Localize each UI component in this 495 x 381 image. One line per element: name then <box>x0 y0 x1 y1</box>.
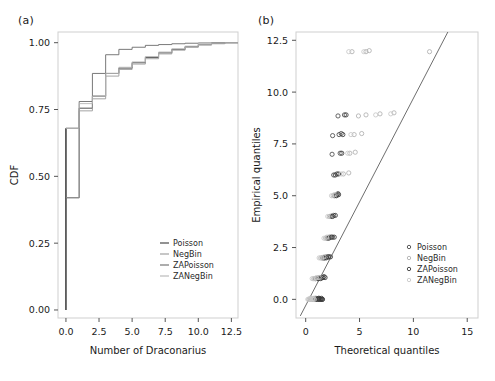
legend-label-negbin: NegBin <box>173 250 202 259</box>
scatter-series-negbin <box>307 49 432 302</box>
scatter-point <box>356 114 360 118</box>
cdf-curve-negbin <box>66 43 238 198</box>
y-tick-label: 0.0 <box>273 294 288 305</box>
x-tick-label: 10.0 <box>188 326 209 337</box>
y-axis-label: CDF <box>9 165 20 186</box>
legend-marker-poisson <box>407 245 410 248</box>
x-tick-label: 2.5 <box>91 326 106 337</box>
x-axis-label: Number of Draconarius <box>90 345 207 356</box>
panel-a-plot: 0.02.55.07.510.012.50.000.250.500.751.00… <box>0 0 248 381</box>
legend-marker-zanegbin <box>407 278 410 281</box>
legend-label-zanegbin: ZANegBin <box>417 276 457 285</box>
y-tick-label: 0.50 <box>29 171 50 182</box>
figure-container: (a) 0.02.55.07.510.012.50.000.250.500.75… <box>0 0 495 381</box>
x-tick-label: 15 <box>461 326 473 337</box>
y-tick-label: 0.25 <box>29 238 50 249</box>
x-tick-label: 0 <box>303 326 309 337</box>
legend-label-poisson: Poisson <box>417 243 447 252</box>
legend-label-poisson: Poisson <box>173 239 203 248</box>
y-tick-label: 0.00 <box>29 304 50 315</box>
scatter-point <box>374 113 378 117</box>
y-tick-label: 0.75 <box>29 104 50 115</box>
scatter-point <box>336 114 340 118</box>
cdf-curve-zanegbin <box>66 43 238 129</box>
y-tick-label: 1.00 <box>29 37 50 48</box>
cdf-curve-zapoisson <box>66 43 238 129</box>
x-tick-label: 7.5 <box>158 326 173 337</box>
scatter-series-poisson <box>310 113 347 302</box>
scatter-point <box>364 113 368 117</box>
legend-marker-zapoisson <box>407 267 410 270</box>
legend-label-zanegbin: ZANegBin <box>173 272 213 281</box>
scatter-point <box>330 152 334 156</box>
scatter-point <box>347 171 351 175</box>
legend-label-negbin: NegBin <box>417 254 446 263</box>
y-tick-label: 12.5 <box>267 35 288 46</box>
y-tick-label: 5.0 <box>273 190 288 201</box>
legend-label-zapoisson: ZAPoisson <box>417 265 458 274</box>
x-tick-label: 12.5 <box>221 326 242 337</box>
y-axis-label: Empirical quantiles <box>251 127 262 223</box>
scatter-point <box>360 131 364 135</box>
scatter-point <box>331 134 335 138</box>
x-tick-label: 5 <box>357 326 363 337</box>
scatter-series-zapoisson <box>314 113 348 302</box>
panel-b-plot: 0510150.02.55.07.510.012.5Theoretical qu… <box>248 0 495 381</box>
legend-marker-negbin <box>407 256 410 259</box>
x-tick-label: 5.0 <box>125 326 140 337</box>
panel-b: (b) 0510150.02.55.07.510.012.5Theoretica… <box>248 0 495 381</box>
scatter-series-zanegbin <box>306 50 393 302</box>
y-tick-label: 2.5 <box>273 242 288 253</box>
x-tick-label: 0.0 <box>58 326 73 337</box>
x-tick-label: 10 <box>407 326 419 337</box>
scatter-point <box>378 112 382 116</box>
y-tick-label: 10.0 <box>267 87 288 98</box>
panel-a: (a) 0.02.55.07.510.012.50.000.250.500.75… <box>0 0 248 381</box>
y-tick-label: 7.5 <box>273 138 288 149</box>
x-axis-label: Theoretical quantiles <box>333 345 439 356</box>
scatter-point <box>353 150 357 154</box>
legend-label-zapoisson: ZAPoisson <box>173 261 214 270</box>
cdf-curve-poisson <box>66 43 238 198</box>
scatter-point <box>427 50 431 54</box>
